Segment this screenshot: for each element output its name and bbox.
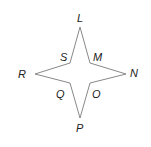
star-diagram: L S M R N Q O P (0, 0, 151, 147)
label-m: M (93, 51, 103, 63)
label-n: N (130, 67, 138, 79)
label-p: P (76, 122, 84, 134)
label-r: R (18, 68, 26, 80)
label-q: Q (56, 88, 65, 100)
label-s: S (60, 51, 68, 63)
label-l: L (77, 12, 83, 24)
label-o: O (92, 88, 101, 100)
star-outline (35, 27, 126, 118)
